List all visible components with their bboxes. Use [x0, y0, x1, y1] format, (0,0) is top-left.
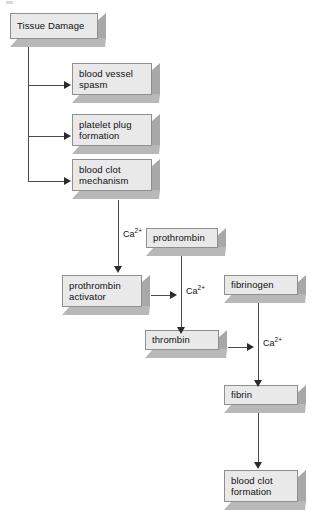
box-face: fibrin	[224, 385, 298, 405]
node-platelet-plug-formation[interactable]: platelet plug formation	[72, 114, 160, 154]
node-fibrin[interactable]: fibrin	[224, 385, 306, 413]
box-face: prothrombin activator	[62, 275, 142, 307]
box-bottom-bevel	[224, 501, 306, 510]
node-label: blood clot mechanism	[79, 164, 151, 187]
box-face: blood vessel spasm	[72, 63, 152, 95]
edge-prothrombin-to-thrombin	[181, 256, 182, 330]
branch-arrowhead-clot-mechanism	[64, 177, 71, 185]
box-face: prothrombin	[146, 228, 218, 248]
box-bottom-bevel	[72, 94, 160, 103]
edge-thrombin-to-fibrin-path	[228, 347, 248, 348]
blood-clotting-cascade-diagram: Tissue Damage blood vessel spasm platele…	[0, 0, 316, 520]
node-prothrombin-activator[interactable]: prothrombin activator	[62, 275, 150, 315]
node-label: platelet plug formation	[79, 119, 151, 142]
ca-element: Ca	[123, 229, 135, 239]
box-bottom-bevel	[146, 247, 226, 256]
edge-fibrinogen-to-fibrin	[258, 303, 259, 383]
box-face: Tissue Damage	[10, 13, 98, 39]
box-bottom-bevel	[72, 145, 160, 154]
node-label: blood vessel spasm	[79, 68, 151, 91]
edge-fibrin-to-blood-clot-formation	[258, 413, 259, 465]
node-label: prothrombin	[153, 232, 217, 244]
ca-element: Ca	[263, 338, 275, 348]
node-label: fibrinogen	[231, 279, 297, 291]
arrowhead-prothrombin-activator	[114, 266, 122, 273]
ca-label-2: Ca2+	[185, 286, 206, 296]
box-bottom-bevel	[224, 294, 306, 303]
node-thrombin[interactable]: thrombin	[145, 330, 227, 358]
ca-charge: 2+	[135, 227, 142, 234]
node-blood-vessel-spasm[interactable]: blood vessel spasm	[72, 63, 160, 103]
arrowhead-thrombin-to-path	[247, 343, 254, 351]
node-tissue-damage[interactable]: Tissue Damage	[10, 13, 106, 47]
node-label: prothrombin activator	[69, 280, 141, 303]
branch-arrowhead-platelet-plug	[64, 132, 71, 140]
arrowhead-thrombin	[177, 327, 185, 334]
scan-artifact	[6, 1, 13, 4]
box-bottom-bevel	[72, 190, 160, 199]
node-label: Tissue Damage	[17, 20, 97, 32]
node-label: fibrin	[231, 389, 297, 401]
box-face: fibrinogen	[224, 275, 298, 295]
ca-charge: 2+	[275, 336, 282, 343]
arrowhead-fibrin	[254, 380, 262, 387]
ca-element: Ca	[186, 286, 198, 296]
trunk-line-tissue-damage	[28, 46, 29, 181]
edge-prothrombin-activator-to-thrombin-path	[151, 295, 171, 296]
box-bottom-bevel	[62, 306, 150, 315]
branch-line-platelet-plug	[28, 136, 65, 137]
box-face: platelet plug formation	[72, 114, 152, 146]
arrowhead-activator-to-path	[170, 291, 177, 299]
edge-clot-mechanism-to-prothrombin-activator	[118, 200, 119, 268]
node-label: blood clot formation	[231, 475, 297, 498]
ca-label-3: Ca2+	[262, 338, 283, 348]
box-face: blood clot mechanism	[72, 159, 152, 191]
box-bottom-bevel	[224, 404, 306, 413]
branch-arrowhead-spasm	[64, 81, 71, 89]
ca-charge: 2+	[198, 284, 205, 291]
node-prothrombin[interactable]: prothrombin	[146, 228, 226, 256]
arrowhead-blood-clot-formation	[254, 462, 262, 469]
node-fibrinogen[interactable]: fibrinogen	[224, 275, 306, 303]
ca-label-1: Ca2+	[122, 229, 143, 239]
box-face: blood clot formation	[224, 470, 298, 502]
node-label: thrombin	[152, 334, 218, 346]
box-bottom-bevel	[145, 349, 227, 358]
node-blood-clot-mechanism[interactable]: blood clot mechanism	[72, 159, 160, 199]
branch-line-spasm	[28, 85, 65, 86]
branch-line-clot-mechanism	[28, 181, 65, 182]
box-bottom-bevel	[10, 38, 106, 47]
node-blood-clot-formation[interactable]: blood clot formation	[224, 470, 306, 510]
